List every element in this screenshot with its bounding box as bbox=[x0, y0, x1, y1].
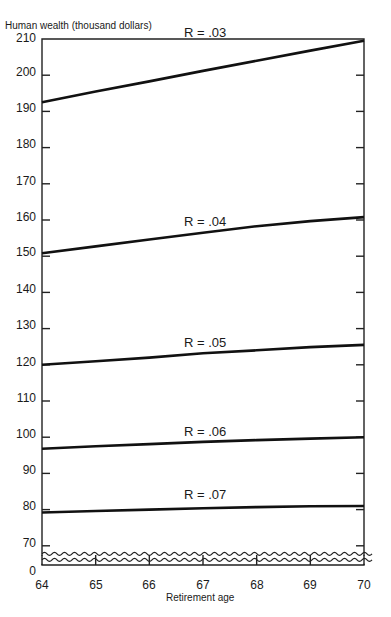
y-tick-label: 190 bbox=[2, 101, 36, 115]
y-tick-label: 140 bbox=[2, 282, 36, 296]
series-line-03 bbox=[42, 41, 364, 103]
y-tick-label: 90 bbox=[2, 463, 36, 477]
series-label-r05: R = .05 bbox=[184, 335, 226, 350]
y-tick-label: 150 bbox=[2, 245, 36, 259]
y-tick-label: 210 bbox=[2, 31, 36, 45]
y-tick-label: 80 bbox=[2, 499, 36, 513]
plot-frame bbox=[42, 39, 364, 556]
y-tick-label: 130 bbox=[2, 318, 36, 332]
y-tick-label: 180 bbox=[2, 137, 36, 151]
y-tick-label: 70 bbox=[2, 536, 36, 550]
y-tick-label: 200 bbox=[2, 65, 36, 79]
series-label-r07: R = .07 bbox=[184, 487, 226, 502]
x-tick-label: 67 bbox=[188, 578, 218, 592]
series-label-r03: R = .03 bbox=[184, 25, 226, 40]
x-tick-label: 69 bbox=[295, 578, 325, 592]
x-axis-title: Retirement age bbox=[166, 592, 234, 603]
y-tick-label: 160 bbox=[2, 210, 36, 224]
y-tick-label: 120 bbox=[2, 355, 36, 369]
y-tick-label: 170 bbox=[2, 174, 36, 188]
y-tick-label: 110 bbox=[2, 391, 36, 405]
x-tick-label: 70 bbox=[349, 578, 379, 592]
series-line-07 bbox=[42, 506, 364, 513]
x-tick-label: 68 bbox=[242, 578, 272, 592]
series-label-r06: R = .06 bbox=[184, 424, 226, 439]
x-tick-label: 66 bbox=[134, 578, 164, 592]
y-tick-label: 100 bbox=[2, 427, 36, 441]
y-tick-label: 0 bbox=[2, 564, 36, 578]
x-tick-label: 64 bbox=[27, 578, 57, 592]
plot-area bbox=[0, 0, 391, 617]
axis-break-icon bbox=[42, 552, 372, 555]
series-label-r04: R = .04 bbox=[184, 214, 226, 229]
x-tick-label: 65 bbox=[81, 578, 111, 592]
